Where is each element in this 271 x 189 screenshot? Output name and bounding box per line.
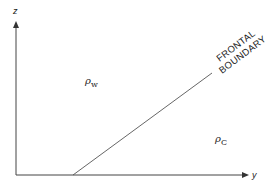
cold-density-label: ρC bbox=[215, 133, 227, 147]
y-axis-label: y bbox=[252, 170, 257, 180]
warm-subscript: w bbox=[91, 80, 98, 89]
z-axis-arrowhead bbox=[13, 21, 19, 28]
z-axis-label: z bbox=[13, 6, 18, 16]
warm-density-label: ρw bbox=[85, 75, 98, 89]
diagram-canvas bbox=[0, 0, 271, 189]
cold-subscript: C bbox=[221, 138, 227, 147]
y-axis-arrowhead bbox=[242, 172, 249, 178]
